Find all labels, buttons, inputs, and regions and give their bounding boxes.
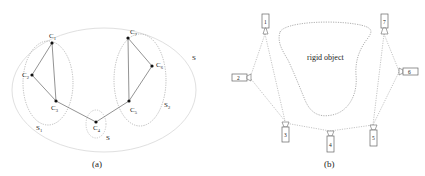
label-c3: C3: [51, 104, 59, 113]
camera-4: 4: [327, 131, 334, 152]
node-c3: [54, 99, 57, 102]
label-subset-s1: S1: [36, 124, 42, 133]
svg-text:5: 5: [372, 135, 375, 141]
svg-text:6: 6: [408, 69, 411, 75]
svg-text:3: 3: [284, 132, 287, 138]
subset-s2-ellipse: [114, 34, 166, 126]
label-c1: C1: [49, 32, 56, 41]
svg-text:1: 1: [264, 19, 267, 25]
svg-text:2: 2: [237, 75, 240, 81]
label-c6: C6: [156, 61, 164, 70]
svg-text:4: 4: [329, 142, 332, 148]
camera-3: 3: [282, 122, 289, 142]
label-outer-set-s: S: [192, 54, 196, 62]
camera-2: 2: [232, 74, 251, 81]
rigid-object-label: rigid object: [307, 53, 344, 62]
camera-1: 1: [262, 14, 269, 34]
figure-canvas: C1 C2 C3 C4 C5 C6 C7 S S1 S2 S (a) rigid…: [0, 0, 425, 176]
caption-b: (b): [324, 159, 335, 169]
node-c5: [127, 99, 130, 102]
outer-set-s-ellipse: [12, 28, 196, 152]
svg-text:7: 7: [383, 19, 386, 25]
camera-6: 6: [399, 68, 418, 75]
camera-7: 7: [381, 14, 388, 34]
camera-5: 5: [370, 125, 377, 146]
label-subset-s3: S: [106, 134, 110, 142]
subset-s1-ellipse: [23, 41, 73, 125]
label-c7: C7: [130, 28, 138, 37]
label-c4: C4: [93, 124, 101, 133]
panel-b: rigid object 1 2 3: [232, 14, 418, 169]
label-c5: C5: [130, 106, 138, 115]
node-c1: [50, 41, 53, 44]
label-c2: C2: [22, 71, 29, 80]
label-subset-s2: S2: [164, 101, 170, 110]
node-c6: [150, 64, 153, 67]
rigid-object-shape: [279, 22, 371, 116]
camera-links: [251, 34, 399, 131]
caption-a: (a): [92, 159, 102, 169]
panel-a: C1 C2 C3 C4 C5 C6 C7 S S1 S2 S (a): [12, 28, 196, 169]
node-c7: [126, 36, 129, 39]
node-c2: [30, 73, 33, 76]
